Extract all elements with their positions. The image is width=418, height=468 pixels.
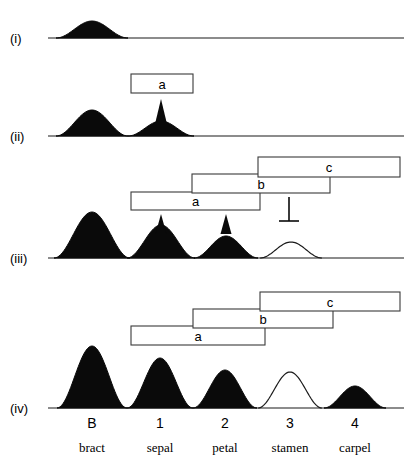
panel-iii: (iii)abc — [10, 157, 404, 266]
gene-box-a-ii: a — [131, 74, 193, 93]
stamen-domain-iv — [258, 372, 322, 408]
gene-box-label-b: b — [259, 312, 266, 327]
gene-box-b-iv: b — [193, 309, 333, 328]
arrow-a-to-sepal — [156, 214, 167, 234]
axis-tick-bract: Bbract — [79, 415, 105, 455]
gene-box-a-iv: a — [131, 326, 265, 345]
gene-box-label-a: a — [192, 194, 200, 209]
axis-tick-name-stamen: stamen — [272, 440, 309, 455]
arrow-a-to-sepal — [156, 99, 167, 122]
stamen-domain-iii — [260, 242, 322, 258]
gene-box-label-a: a — [194, 329, 202, 344]
axis-tick-number-2: 2 — [221, 415, 229, 431]
axis-tick-number-3: 3 — [286, 415, 294, 431]
sepal-domain-iv — [127, 358, 193, 408]
bract-domain-iv — [57, 346, 127, 408]
panel-label-i: (i) — [10, 31, 22, 46]
axis-tick-number-0: B — [87, 415, 96, 431]
axis-layer: Bbract1sepal2petal3stamen4carpel — [79, 415, 371, 455]
arrow-a-to-petal — [221, 214, 232, 234]
axis-tick-sepal: 1sepal — [147, 415, 174, 455]
axis-tick-name-petal: petal — [212, 440, 238, 455]
petal-domain-iii — [194, 236, 258, 258]
axis-tick-petal: 2petal — [212, 415, 238, 455]
gene-box-c-iv: c — [260, 292, 400, 311]
gene-box-label-c: c — [327, 295, 334, 310]
inhibit-c-on-a — [279, 197, 299, 221]
panel-iv: (iv)abc — [10, 292, 404, 416]
axis-tick-number-1: 1 — [156, 415, 164, 431]
axis-tick-name-sepal: sepal — [147, 440, 174, 455]
panels-layer: (i)(ii)a(iii)abc(iv)abc — [10, 21, 404, 416]
axis-tick-number-4: 4 — [351, 415, 359, 431]
bract-domain-ii — [56, 110, 128, 136]
carpel-domain-iv — [324, 386, 386, 408]
bract-domain-iii — [54, 212, 130, 258]
sepal-domain-ii — [128, 121, 194, 136]
panel-label-iii: (iii) — [10, 251, 27, 266]
axis-tick-name-carpel: carpel — [339, 440, 371, 455]
panel-label-ii: (ii) — [10, 129, 24, 144]
gene-box-a-iii: a — [131, 192, 260, 210]
abc-model-figure: (i)(ii)a(iii)abc(iv)abc Bbract1sepal2pet… — [0, 0, 418, 468]
axis-tick-stamen: 3stamen — [272, 415, 309, 455]
gene-box-c-iii: c — [258, 157, 400, 177]
axis-tick-carpel: 4carpel — [339, 415, 371, 455]
axis-tick-name-bract: bract — [79, 440, 105, 455]
petal-domain-iv — [193, 370, 257, 408]
gene-box-label-b: b — [257, 177, 264, 192]
gene-box-label-a: a — [158, 77, 166, 92]
bract-domain-i — [56, 21, 128, 38]
panel-ii: (ii)a — [10, 74, 404, 144]
gene-box-label-c: c — [326, 160, 333, 175]
panel-label-iv: (iv) — [10, 401, 28, 416]
figure-canvas: (i)(ii)a(iii)abc(iv)abc Bbract1sepal2pet… — [0, 0, 418, 468]
panel-i: (i) — [10, 21, 404, 46]
